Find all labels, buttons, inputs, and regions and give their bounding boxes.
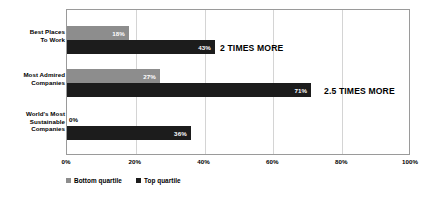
annotation-2point5-times-more: 2.5 TIMES MORE [324,86,395,96]
legend-swatch-icon [66,178,71,183]
legend-item-top-quartile[interactable]: Top quartile [136,177,181,184]
category-label-line: Best Places [3,28,65,36]
annotation-2-times-more: 2 TIMES MORE [220,43,283,53]
category-label-line: Most Admired [3,71,65,79]
xtick-label-80: 80% [321,158,361,165]
bar-chart: 18% 43% 27% 71% 0% 36% Best Places To Wo… [0,0,437,201]
bar-value-label: 0% [69,116,78,123]
xtick-label-100: 100% [390,158,430,165]
xtick-label-20: 20% [115,158,155,165]
bar-top-quartile-best-places-to-work[interactable]: 43% [67,40,215,54]
bar-bottom-quartile-best-places-to-work[interactable]: 18% [67,26,129,40]
gridline-40 [205,10,206,154]
bar-value-label: 71% [295,87,308,94]
category-label-line: To Work [3,36,65,44]
bar-top-quartile-worlds-most-sustainable-companies[interactable]: 36% [67,126,191,140]
bar-value-label: 18% [112,30,125,37]
xtick-label-40: 40% [184,158,224,165]
xtick-label-0: 0% [46,158,86,165]
xtick-label-60: 60% [252,158,292,165]
plot-area: 18% 43% 27% 71% 0% 36% [66,9,410,155]
category-label-line: Companies [3,79,65,87]
legend-item-bottom-quartile[interactable]: Bottom quartile [66,177,122,184]
legend-label: Top quartile [144,177,181,184]
bar-top-quartile-most-admired-companies[interactable]: 71% [67,83,311,97]
gridline-80 [342,10,343,154]
category-label-line: Sustainable [3,118,65,126]
bar-value-label: 27% [143,73,156,80]
category-label-line: World's Most [3,110,65,118]
gridline-60 [273,10,274,154]
category-label-line: Companies [3,125,65,133]
category-label-worlds-most-sustainable-companies: World's Most Sustainable Companies [3,110,65,133]
bar-bottom-quartile-most-admired-companies[interactable]: 27% [67,69,160,83]
legend-swatch-icon [136,178,141,183]
category-label-most-admired-companies: Most Admired Companies [3,71,65,86]
legend-label: Bottom quartile [74,177,122,184]
category-label-best-places-to-work: Best Places To Work [3,28,65,43]
bar-value-label: 43% [198,44,211,51]
bar-value-label: 36% [174,130,187,137]
chart-legend: Bottom quartile Top quartile [66,177,181,184]
